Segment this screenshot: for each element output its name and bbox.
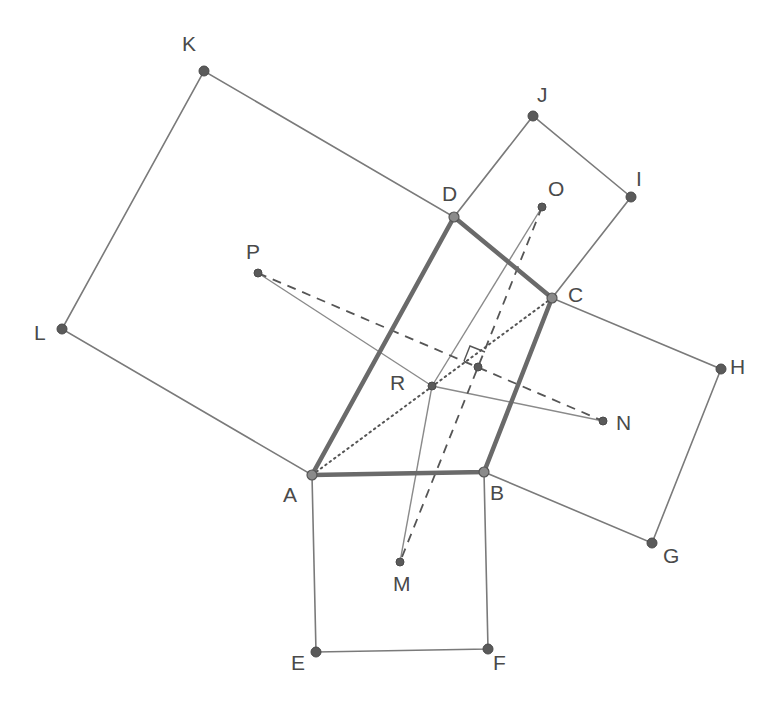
label-L: L (34, 321, 46, 344)
labels: A B C D E F G H I J K L M N O P R (34, 32, 745, 674)
point-D[interactable] (449, 212, 459, 222)
point-L[interactable] (57, 324, 67, 334)
label-E: E (291, 651, 305, 674)
point-E[interactable] (311, 647, 321, 657)
label-P: P (246, 240, 260, 263)
point-A[interactable] (307, 470, 317, 480)
segment-RO (432, 207, 542, 386)
point-K[interactable] (199, 66, 209, 76)
point-G[interactable] (647, 538, 657, 548)
label-G: G (663, 544, 679, 567)
geometry-figure: A B C D E F G H I J K L M N O P R (0, 0, 778, 709)
point-M[interactable] (396, 558, 404, 566)
point-J[interactable] (528, 111, 538, 121)
squares (62, 71, 721, 652)
quadrilateral-ABCD (312, 217, 552, 475)
point-P[interactable] (254, 269, 262, 277)
label-M: M (393, 572, 411, 595)
label-B: B (490, 481, 504, 504)
label-C: C (568, 283, 583, 306)
point-B[interactable] (479, 467, 489, 477)
point-C[interactable] (547, 293, 557, 303)
point-I[interactable] (626, 192, 636, 202)
label-R: R (390, 371, 405, 394)
point-intersection[interactable] (474, 363, 482, 371)
point-F[interactable] (483, 644, 493, 654)
segment-RP (258, 273, 432, 386)
label-I: I (636, 167, 642, 190)
label-H: H (730, 355, 745, 378)
label-F: F (493, 651, 506, 674)
label-A: A (283, 483, 297, 506)
label-K: K (182, 32, 196, 55)
label-N: N (616, 411, 631, 434)
segment-OM (400, 207, 542, 562)
point-O[interactable] (538, 203, 546, 211)
label-J: J (537, 83, 548, 106)
point-R[interactable] (428, 382, 436, 390)
label-D: D (442, 182, 457, 205)
label-O: O (548, 177, 564, 200)
point-N[interactable] (599, 417, 607, 425)
point-H[interactable] (716, 364, 726, 374)
